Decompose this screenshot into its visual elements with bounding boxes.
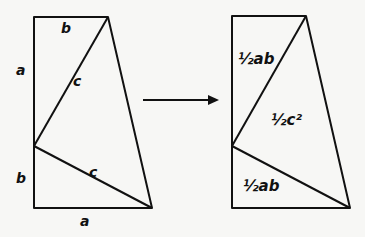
label-left-a: a — [16, 62, 25, 78]
label-lower-c: c — [89, 164, 98, 180]
label-lower-half-ab: ½ab — [243, 177, 280, 195]
label-upper-c: c — [73, 73, 82, 89]
label-upper-half-ab: ½ab — [238, 50, 275, 68]
trapezoid-proof-diagram: b a c b c a ½ab ½c² ½ab — [0, 0, 365, 237]
left-upper-hypotenuse — [34, 17, 108, 146]
label-half-c-squared: ½c² — [271, 111, 302, 129]
label-bottom-a: a — [80, 213, 89, 229]
label-top-b: b — [61, 20, 71, 36]
arrow-right-icon — [143, 95, 219, 105]
label-left-b: b — [16, 170, 26, 186]
